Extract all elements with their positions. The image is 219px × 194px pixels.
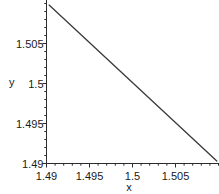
plot-figure: 1.491.4951.51.5051.491.4951.51.505 y x bbox=[0, 0, 219, 194]
y-tick-label: 1.495 bbox=[16, 118, 44, 130]
x-tick-label: 1.505 bbox=[162, 170, 190, 182]
y-tick-label: 1.505 bbox=[16, 38, 44, 50]
plot-canvas: 1.491.4951.51.5051.491.4951.51.505 bbox=[0, 0, 219, 194]
x-tick-label: 1.5 bbox=[125, 170, 140, 182]
x-tick-label: 1.49 bbox=[36, 170, 57, 182]
y-tick-label: 1.5 bbox=[28, 78, 43, 90]
plot-line bbox=[49, 5, 217, 161]
y-axis-label: y bbox=[9, 77, 15, 88]
x-tick-label: 1.495 bbox=[76, 170, 104, 182]
x-axis-label: x bbox=[123, 182, 135, 193]
y-tick-label: 1.49 bbox=[22, 158, 43, 170]
